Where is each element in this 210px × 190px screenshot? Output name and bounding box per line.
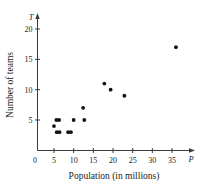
data-point: [81, 106, 85, 110]
y-axis-arrow: [35, 13, 39, 19]
y-tick-label: 5: [29, 116, 33, 125]
origin-label: 0: [33, 156, 37, 165]
chart-canvas: 51015202530350 5101520 TPPopulation (in …: [0, 0, 210, 190]
x-tick-label: 10: [70, 156, 78, 165]
data-point: [72, 118, 76, 122]
y-axis-variable: T: [29, 12, 35, 22]
data-point: [58, 130, 62, 134]
x-tick-label: 20: [109, 156, 117, 165]
data-points: [52, 45, 178, 134]
data-point: [52, 124, 56, 128]
data-point: [82, 118, 86, 122]
y-axis-title: Number of teams: [5, 52, 15, 118]
data-point: [102, 82, 106, 86]
y-tick-label: 20: [25, 25, 33, 34]
x-tick-label: 15: [89, 156, 97, 165]
x-tick-label: 5: [52, 156, 56, 165]
x-tick-label: 35: [168, 156, 176, 165]
x-tick-label: 30: [148, 156, 156, 165]
data-point: [123, 94, 127, 98]
data-point: [109, 88, 113, 92]
x-axis-arrow: [189, 148, 195, 152]
scatter-chart: 51015202530350 5101520 TPPopulation (in …: [0, 0, 210, 190]
x-axis-variable: P: [187, 154, 193, 164]
x-tick-label: 25: [129, 156, 137, 165]
y-tick-label: 10: [25, 86, 33, 95]
data-point: [57, 118, 61, 122]
y-tick-label: 15: [25, 55, 33, 64]
data-point: [174, 45, 178, 49]
x-axis-title: Population (in millions): [69, 171, 160, 182]
data-point: [69, 130, 73, 134]
